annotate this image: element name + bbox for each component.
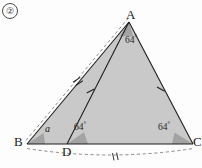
angle-label-a: 64° [125,34,137,46]
degree-symbol-a: ° [135,33,138,40]
angle-label-d: 64° [74,121,86,133]
vertex-label-c: C [193,135,202,148]
degree-symbol-c: ° [168,120,171,127]
geometry-figure [0,0,202,168]
figure-container: ② [0,0,202,168]
vertex-label-d: D [62,145,71,158]
dashed-arc-bc [27,149,193,156]
degree-symbol-d: ° [84,120,87,127]
vertex-label-b: B [14,135,23,148]
angle-value-d: 64 [74,122,84,132]
angle-value-a: 64 [125,35,135,45]
angle-label-c: 64° [158,121,170,133]
angle-value-c: 64 [158,122,168,132]
vertex-label-a: A [126,8,135,21]
tick-double-bc-arc [113,153,119,161]
angle-label-b-alpha: a [45,124,50,134]
